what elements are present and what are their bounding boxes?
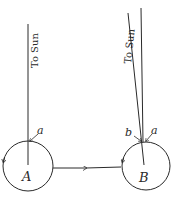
rotation-arrow-a [4,157,5,162]
point-label-b: b [125,126,132,139]
diagram-canvas: To Sun a A To Sun b a B [0,0,178,197]
to-sun-label-b: To Sun [122,28,137,64]
body-label-a: A [21,169,31,184]
body-a-group: To Sun a A [3,24,53,191]
point-label-a-right: a [151,124,158,137]
body-b-group: To Sun b a B [122,8,170,190]
motion-line [86,167,121,168]
reference-line-b [141,8,143,142]
to-sun-label-a: To Sun [29,33,40,68]
pointer-b [134,136,141,141]
point-label-a: a [37,124,44,137]
body-label-b: B [138,170,149,185]
